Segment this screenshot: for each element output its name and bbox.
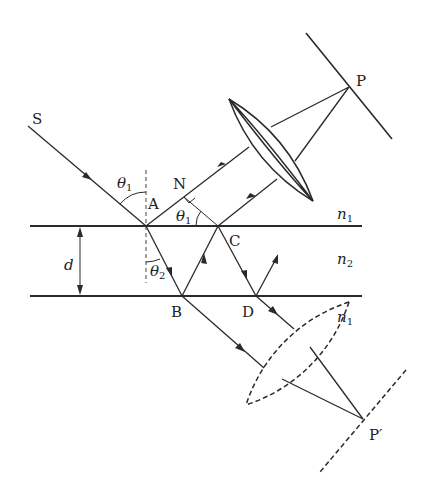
label-theta1-incident: θ1 <box>117 174 132 193</box>
label-A: A <box>147 195 159 213</box>
angle-arc-theta1-C <box>196 211 201 226</box>
converging-lens-upper <box>229 99 313 201</box>
label-theta1-C: θ1 <box>176 207 191 226</box>
label-C: C <box>229 232 240 250</box>
label-theta2: θ2 <box>150 262 165 281</box>
ray-lens-to-P-lower <box>295 87 349 161</box>
ray-BC <box>182 226 218 296</box>
converging-lens-lower <box>246 302 349 405</box>
thickness-label: d <box>64 256 74 274</box>
arrow-icon <box>241 270 247 280</box>
ray-lens-to-P-upper <box>271 87 349 127</box>
refracted-ray-AB <box>146 226 182 296</box>
ray-D-up <box>256 257 277 296</box>
label-S: S <box>32 110 42 128</box>
screen-P <box>306 33 392 139</box>
arrow-icon <box>246 193 256 199</box>
label-D: D <box>242 303 254 321</box>
label-n1-bottom: n1 <box>337 308 353 327</box>
thin-film-interference-diagram: d S A N C <box>0 0 425 500</box>
label-P: P <box>356 72 366 90</box>
thickness-arrow <box>77 227 83 295</box>
label-N: N <box>173 175 186 193</box>
label-n1-top: n1 <box>337 205 353 224</box>
ray-C-to-lens <box>218 179 277 226</box>
arrow-icon <box>166 267 172 277</box>
angle-arc-theta1-incident <box>120 192 146 204</box>
ray-lower-lens-to-P-prime-left <box>282 379 363 419</box>
screen-P-prime <box>320 370 406 472</box>
label-P-prime: P′ <box>369 426 383 444</box>
label-B: B <box>171 303 182 321</box>
arrow-icon <box>272 254 278 264</box>
label-n2: n2 <box>337 250 353 269</box>
